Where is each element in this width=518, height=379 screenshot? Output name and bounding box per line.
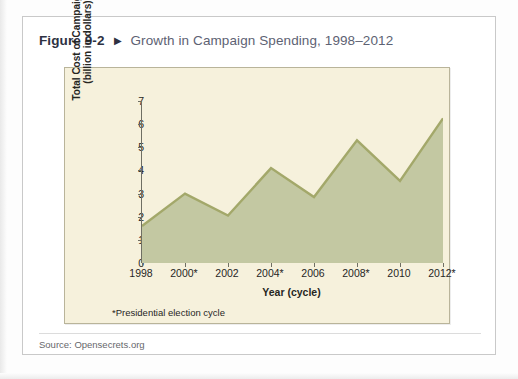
y-axis-title: Total Cost of Campaigns(billion in dolla… [71, 0, 93, 123]
source-text: Source: Opensecrets.org [39, 339, 145, 350]
y-tick-mark [138, 101, 142, 102]
x-axis-title: Year (cycle) [141, 286, 442, 298]
page-canvas: Figure 9-2 ▶ Growth in Campaign Spending… [0, 0, 518, 379]
x-tick-label: 2002 [205, 268, 249, 279]
x-tick-label: 2010 [377, 268, 421, 279]
plot-area [142, 101, 442, 262]
y-tick-mark [138, 147, 142, 148]
figure-title: Growth in Campaign Spending, 1998–2012 [131, 33, 394, 48]
chart-panel: Total Cost of Campaigns(billion in dolla… [64, 67, 450, 324]
x-tick-label: 2006 [291, 268, 335, 279]
x-tick-label: 2008* [334, 268, 378, 279]
area-series-chart [142, 101, 443, 263]
x-tick-label: 2000* [162, 268, 206, 279]
area-fill-shape [142, 118, 443, 263]
y-tick-mark [138, 170, 142, 171]
y-tick-mark [138, 194, 142, 195]
y-tick-mark [138, 124, 142, 125]
page-edge-shading-left [0, 0, 7, 379]
x-tick-label: 2004* [248, 268, 292, 279]
triangle-right-icon: ▶ [114, 35, 122, 46]
y-tick-mark [138, 240, 142, 241]
figure-card: Figure 9-2 ▶ Growth in Campaign Spending… [22, 16, 496, 355]
source-divider [39, 333, 481, 334]
page-edge-shading-bottom [0, 373, 518, 379]
y-axis-title-line2: (billion in dollars) [82, 0, 93, 83]
y-tick-mark [138, 217, 142, 218]
chart-footnote: *Presidential election cycle [112, 307, 225, 318]
x-tick-label: 1998 [119, 268, 163, 279]
y-axis-title-line1: Total Cost of Campaigns [71, 0, 82, 101]
plot-frame [141, 101, 442, 263]
x-tick-label: 2012* [420, 268, 464, 279]
